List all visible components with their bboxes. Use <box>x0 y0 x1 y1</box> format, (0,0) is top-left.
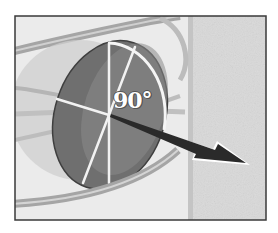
angle-label: 90° <box>113 87 152 113</box>
diagram-canvas <box>0 0 278 233</box>
vertical-divider <box>188 16 193 220</box>
